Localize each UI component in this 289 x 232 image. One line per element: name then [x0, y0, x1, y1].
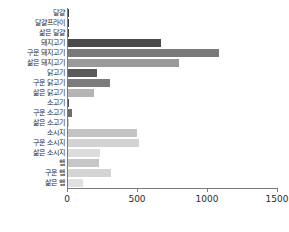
x-axis-tick — [67, 188, 68, 192]
x-axis-tick — [207, 188, 208, 192]
x-axis-line — [67, 188, 278, 189]
category-label: 구운 소시지 — [1, 138, 65, 148]
bar-row: 소고기 — [0, 98, 289, 108]
bar-row: 소시지 — [0, 128, 289, 138]
bar-row: 구운 돼지고기 — [0, 48, 289, 58]
category-label: 닭고기 — [1, 68, 65, 78]
category-label: 삶은 소고기 — [1, 118, 65, 128]
bar — [68, 19, 69, 27]
x-axis-tick — [137, 188, 138, 192]
bar-row: 구운 닭고기 — [0, 78, 289, 88]
bar — [68, 129, 137, 137]
category-label: 삶은 햄 — [1, 178, 65, 188]
bar — [68, 29, 69, 37]
category-label: 삶은 소시지 — [1, 148, 65, 158]
bar — [68, 179, 83, 187]
category-label: 돼지고기 — [1, 38, 65, 48]
bar-row: 햄 — [0, 158, 289, 168]
bar-row: 구운 햄 — [0, 168, 289, 178]
bar — [68, 69, 97, 77]
bar-row: 삶은 달걀 — [0, 28, 289, 38]
bar — [68, 109, 72, 117]
category-label: 구운 소고기 — [1, 108, 65, 118]
bar — [68, 39, 161, 47]
bar-row: 달걀프라이 — [0, 18, 289, 28]
bar — [68, 9, 69, 17]
category-label: 달걀프라이 — [1, 18, 65, 28]
x-axis-tick — [277, 188, 278, 192]
bar-row: 달걀 — [0, 8, 289, 18]
bar — [68, 119, 69, 127]
bar-row: 삶은 소고기 — [0, 118, 289, 128]
category-label: 구운 햄 — [1, 168, 65, 178]
x-axis-tick-label: 0 — [47, 194, 87, 205]
bar-row: 삶은 닭고기 — [0, 88, 289, 98]
bar — [68, 169, 111, 177]
category-label: 구운 닭고기 — [1, 78, 65, 88]
bar — [68, 139, 139, 147]
x-axis-tick-label: 1000 — [187, 194, 227, 205]
bar-row: 돼지고기 — [0, 38, 289, 48]
bar — [68, 89, 94, 97]
category-label: 삶은 돼지고기 — [1, 58, 65, 68]
bar-row: 구운 소고기 — [0, 108, 289, 118]
category-label: 구운 돼지고기 — [1, 48, 65, 58]
bar-row: 닭고기 — [0, 68, 289, 78]
bar-row: 구운 소시지 — [0, 138, 289, 148]
category-label: 소시지 — [1, 128, 65, 138]
category-label: 삶은 닭고기 — [1, 88, 65, 98]
category-label: 달걀 — [1, 8, 65, 18]
bar — [68, 159, 99, 167]
bar-row: 삶은 돼지고기 — [0, 58, 289, 68]
bar-chart: 달걀달걀프라이삶은 달걀돼지고기구운 돼지고기삶은 돼지고기닭고기구운 닭고기삶… — [0, 0, 289, 232]
category-label: 소고기 — [1, 98, 65, 108]
bar — [68, 59, 179, 67]
bar — [68, 49, 219, 57]
category-label: 삶은 달걀 — [1, 28, 65, 38]
category-label: 햄 — [1, 158, 65, 168]
bar-row: 삶은 소시지 — [0, 148, 289, 158]
bar — [68, 99, 69, 107]
bar — [68, 149, 100, 157]
x-axis-tick-label: 500 — [117, 194, 157, 205]
bar-row: 삶은 햄 — [0, 178, 289, 188]
x-axis-tick-label: 1500 — [257, 194, 289, 205]
bar — [68, 79, 110, 87]
